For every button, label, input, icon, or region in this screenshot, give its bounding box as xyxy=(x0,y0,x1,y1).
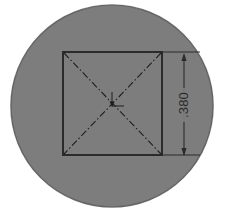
dimension-text-group: .380 xyxy=(176,88,191,122)
drawing-svg: .380 xyxy=(0,0,225,221)
dimension-value-label: .380 xyxy=(176,92,191,118)
technical-drawing-canvas: .380 xyxy=(0,0,225,221)
